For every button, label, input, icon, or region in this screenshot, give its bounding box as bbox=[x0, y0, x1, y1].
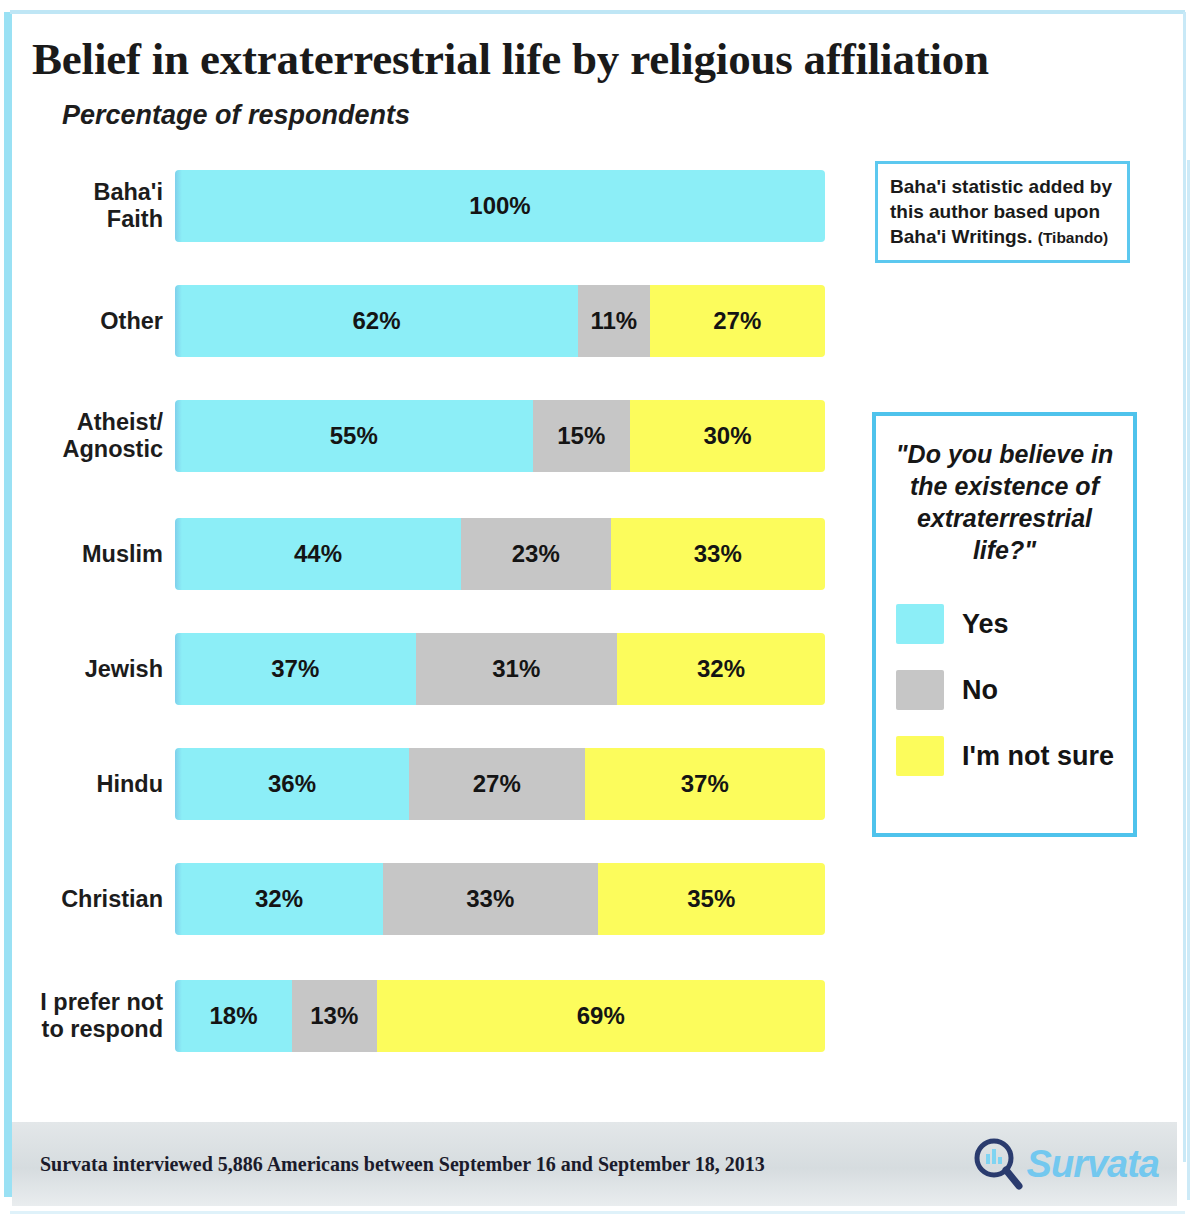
legend-box: "Do you believe in the existence of extr… bbox=[872, 412, 1137, 837]
legend-label-unsure: I'm not sure bbox=[962, 741, 1114, 772]
bar-segment-unsure: 27% bbox=[650, 285, 826, 357]
stacked-bar: 32%33%35% bbox=[175, 863, 825, 935]
category-label: Muslim bbox=[0, 541, 175, 568]
bar-segment-no: 11% bbox=[578, 285, 650, 357]
bar-segment-unsure: 69% bbox=[377, 980, 826, 1052]
bar-segment-yes: 100% bbox=[175, 170, 825, 242]
chart-row: Jewish37%31%32% bbox=[0, 633, 860, 705]
chart-plot-area: Baha'i Faith100%Other62%11%27%Atheist/ A… bbox=[0, 160, 860, 1060]
category-label: Christian bbox=[0, 886, 175, 913]
footer-source-text: Survata interviewed 5,886 Americans betw… bbox=[40, 1153, 765, 1176]
legend-label-no: No bbox=[962, 675, 998, 706]
bar-segment-unsure: 37% bbox=[585, 748, 826, 820]
chart-row: Baha'i Faith100% bbox=[0, 170, 860, 242]
bar-segment-yes: 55% bbox=[175, 400, 533, 472]
page-border-right bbox=[1183, 12, 1186, 1162]
magnifying-glass-icon bbox=[971, 1136, 1025, 1192]
bar-segment-no: 15% bbox=[533, 400, 631, 472]
category-label: Baha'i Faith bbox=[0, 179, 175, 233]
stacked-bar: 44%23%33% bbox=[175, 518, 825, 590]
stacked-bar: 37%31%32% bbox=[175, 633, 825, 705]
legend-label-yes: Yes bbox=[962, 609, 1009, 640]
bar-segment-yes: 36% bbox=[175, 748, 409, 820]
bar-segment-no: 33% bbox=[383, 863, 598, 935]
bar-segment-no: 23% bbox=[461, 518, 611, 590]
survata-logo: Survata bbox=[971, 1136, 1159, 1192]
category-label: I prefer not to respond bbox=[0, 989, 175, 1043]
stacked-bar: 18%13%69% bbox=[175, 980, 825, 1052]
page-border-right-inner bbox=[1187, 160, 1190, 1200]
legend-item-yes: Yes bbox=[890, 604, 1119, 644]
stacked-bar: 62%11%27% bbox=[175, 285, 825, 357]
legend-question: "Do you believe in the existence of extr… bbox=[890, 438, 1119, 566]
category-label: Jewish bbox=[0, 656, 175, 683]
bar-segment-unsure: 30% bbox=[630, 400, 825, 472]
chart-row: Christian32%33%35% bbox=[0, 863, 860, 935]
bar-segment-unsure: 33% bbox=[611, 518, 826, 590]
bar-segment-no: 13% bbox=[292, 980, 377, 1052]
annotation-note-box: Baha'i statistic added by this author ba… bbox=[875, 161, 1130, 263]
chart-row: Hindu36%27%37% bbox=[0, 748, 860, 820]
survata-logo-text: Survata bbox=[1027, 1143, 1159, 1186]
annotation-attribution: (Tibando) bbox=[1038, 229, 1108, 246]
bar-segment-yes: 32% bbox=[175, 863, 383, 935]
bar-segment-yes: 18% bbox=[175, 980, 292, 1052]
bar-segment-unsure: 32% bbox=[617, 633, 825, 705]
bar-segment-yes: 62% bbox=[175, 285, 578, 357]
page-subtitle: Percentage of respondents bbox=[62, 100, 410, 131]
bar-segment-yes: 37% bbox=[175, 633, 416, 705]
category-label: Hindu bbox=[0, 771, 175, 798]
stacked-bar: 55%15%30% bbox=[175, 400, 825, 472]
chart-page: Belief in extraterrestrial life by relig… bbox=[0, 0, 1192, 1220]
bar-segment-no: 27% bbox=[409, 748, 585, 820]
bar-segment-unsure: 35% bbox=[598, 863, 826, 935]
bar-segment-no: 31% bbox=[416, 633, 618, 705]
stacked-bar: 36%27%37% bbox=[175, 748, 825, 820]
chart-row: Muslim44%23%33% bbox=[0, 518, 860, 590]
page-border-bottom bbox=[10, 1211, 1185, 1214]
stacked-bar: 100% bbox=[175, 170, 825, 242]
legend-item-unsure: I'm not sure bbox=[890, 736, 1119, 776]
legend-swatch-no-icon bbox=[896, 670, 944, 710]
page-title: Belief in extraterrestrial life by relig… bbox=[32, 33, 1162, 85]
chart-row: I prefer not to respond18%13%69% bbox=[0, 980, 860, 1052]
chart-row: Atheist/ Agnostic55%15%30% bbox=[0, 400, 860, 472]
page-border-top bbox=[10, 10, 1185, 14]
category-label: Other bbox=[0, 308, 175, 335]
legend-swatch-unsure-icon bbox=[896, 736, 944, 776]
legend-item-no: No bbox=[890, 670, 1119, 710]
chart-row: Other62%11%27% bbox=[0, 285, 860, 357]
legend-swatch-yes-icon bbox=[896, 604, 944, 644]
footer-bar: Survata interviewed 5,886 Americans betw… bbox=[12, 1122, 1177, 1206]
category-label: Atheist/ Agnostic bbox=[0, 409, 175, 463]
bar-segment-yes: 44% bbox=[175, 518, 461, 590]
